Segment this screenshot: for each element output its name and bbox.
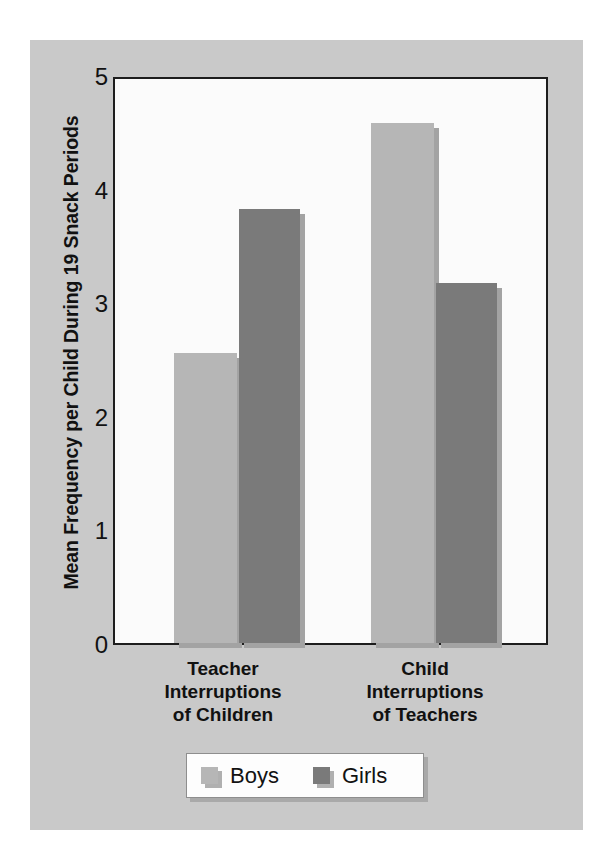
swatch-face [313,767,330,784]
x-group-label-teacher-interruptions: Teacher Interruptions of Children [128,657,318,727]
x-group-label-child-interruptions: Child Interruptions of Teachers [330,657,520,727]
bar-boys-teacher-interruptions [174,353,237,643]
bar-face [371,123,434,643]
chart-page: Mean Frequency per Child During 19 Snack… [0,0,612,865]
y-tick-label-4: 4 [86,179,108,203]
legend-swatch-boys-icon [201,767,218,784]
chart-panel: Mean Frequency per Child During 19 Snack… [30,40,583,830]
y-tick-label-0: 0 [86,633,108,657]
bar-face [239,209,300,643]
swatch-face [201,767,218,784]
y-tick-label-3: 3 [86,292,108,316]
chart-legend: Boys Girls [186,753,424,798]
bar-boys-child-interruptions [371,123,434,643]
bar-face [174,353,237,643]
legend-entry-girls: Girls [313,754,387,797]
y-axis-tick-labels: 0 1 2 3 4 5 [78,77,108,645]
y-tick-label-1: 1 [86,519,108,543]
legend-entry-boys: Boys [201,754,279,797]
bar-face [436,283,497,643]
bar-girls-child-interruptions [436,283,497,643]
legend-label-girls: Girls [342,765,387,787]
plot-area [115,79,546,643]
bar-girls-teacher-interruptions [239,209,300,643]
plot-frame [113,77,548,645]
y-tick-label-5: 5 [86,65,108,89]
y-tick-label-2: 2 [86,406,108,430]
legend-swatch-girls-icon [313,767,330,784]
legend-label-boys: Boys [230,765,279,787]
